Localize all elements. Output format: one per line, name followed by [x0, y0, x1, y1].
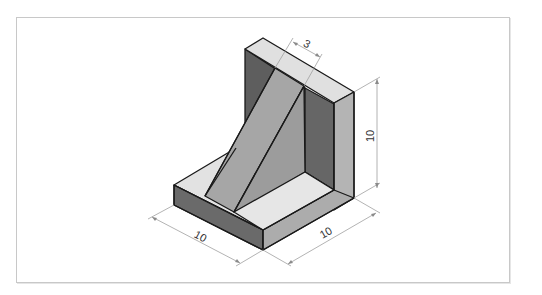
dim-height-label: 10 — [364, 130, 376, 142]
dim-width-ext-right — [354, 198, 380, 213]
dim-depth-label: 10 — [192, 228, 208, 244]
dim-depth-ext-left — [148, 205, 174, 219]
isometric-drawing: 3 10 10 10 — [0, 0, 542, 295]
dim-rib-thickness-label: 3 — [302, 37, 313, 50]
dim-height-ext-top — [354, 77, 380, 92]
dim-depth-ext-right — [236, 250, 263, 266]
dim-width-ext-left — [263, 250, 291, 266]
